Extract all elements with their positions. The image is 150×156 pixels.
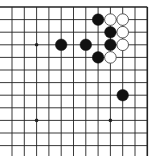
black-stone: [92, 14, 104, 26]
black-stone: [55, 39, 67, 51]
white-stone: [105, 52, 117, 64]
black-stone: [117, 89, 129, 101]
go-board[interactable]: [0, 0, 150, 156]
white-stone: [117, 26, 129, 38]
star-point: [35, 119, 39, 123]
black-stone: [80, 39, 92, 51]
black-stone: [92, 52, 104, 64]
star-point: [35, 43, 39, 47]
black-stone: [105, 39, 117, 51]
white-stone: [117, 14, 129, 26]
star-point: [109, 119, 113, 123]
black-stone: [105, 26, 117, 38]
white-stone: [117, 39, 129, 51]
white-stone: [105, 14, 117, 26]
